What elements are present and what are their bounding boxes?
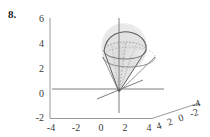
vertical-tick-0: 6 — [39, 13, 44, 24]
origin-point — [118, 89, 121, 92]
depth-tick-1: 2 — [166, 116, 174, 128]
vertical-tick-3: 0 — [39, 88, 44, 99]
horizontal-tick-2: 0 — [99, 122, 104, 133]
vertical-axis-ticks: 6 4 2 0 -2 — [36, 13, 44, 123]
horizontal-tick-1: -2 — [72, 122, 80, 133]
horizontal-tick-3: 2 — [123, 122, 128, 133]
depth-tick-2: 0 — [177, 112, 185, 124]
horizontal-tick-4: 4 — [147, 122, 152, 133]
vertical-tick-2: 2 — [39, 63, 44, 74]
horizontal-axis-ticks: -4 -2 0 2 4 — [47, 122, 152, 133]
vertical-tick-1: 4 — [39, 38, 44, 49]
depth-axis-ticks: 4 2 0 -2 -4 — [155, 97, 202, 132]
figure-container: 8. 6 — [0, 0, 210, 137]
three-d-plot: 6 4 2 0 -2 -4 -2 0 2 4 4 2 0 -2 -4 — [0, 0, 210, 137]
depth-tick-0: 4 — [155, 120, 163, 132]
vertical-tick-4: -2 — [36, 112, 44, 123]
horizontal-tick-0: -4 — [47, 122, 55, 133]
